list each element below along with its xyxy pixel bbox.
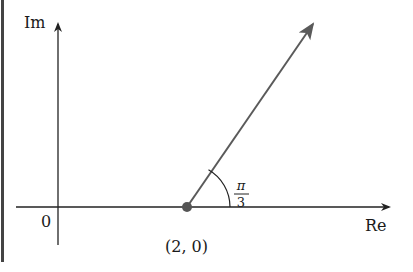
origin-label: 0 — [41, 212, 51, 231]
point-label: (2, 0) — [165, 237, 208, 256]
im-axis-label: Im — [24, 13, 46, 32]
angle-denominator: 3 — [237, 195, 245, 210]
diagram-svg: Im 0 Re (2, 0) π 3 — [0, 0, 413, 272]
angle-numerator: π — [236, 178, 246, 193]
angle-arc — [209, 170, 231, 207]
ray-arrow — [187, 24, 313, 207]
point-2-0 — [182, 202, 192, 212]
left-border — [1, 0, 4, 262]
re-axis-label: Re — [365, 216, 387, 235]
complex-plane-diagram: Im 0 Re (2, 0) π 3 — [0, 0, 413, 272]
